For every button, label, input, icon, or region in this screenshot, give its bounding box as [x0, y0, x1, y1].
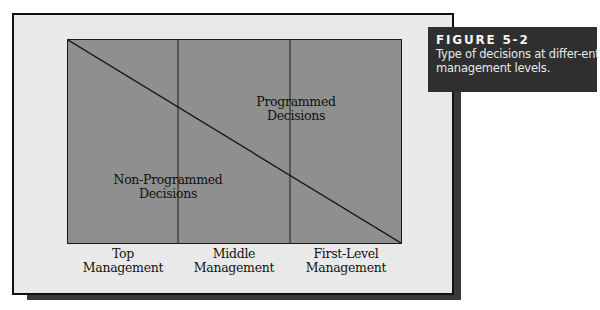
figure-frame: Programmed Decisions Non-Programmed Deci…: [12, 13, 454, 295]
non-programmed-label-line1: Non-Programmed: [98, 173, 238, 187]
decision-diagram: Programmed Decisions Non-Programmed Deci…: [67, 39, 402, 244]
diagram-lines: [68, 40, 401, 243]
level-label-line2: Management: [178, 261, 290, 275]
level-label-line1: Top: [67, 247, 179, 261]
level-label-line2: Management: [67, 261, 179, 275]
management-levels: Top Management Middle Management First-L…: [67, 247, 402, 287]
level-top-management: Top Management: [67, 247, 179, 275]
programmed-label-line1: Programmed: [236, 95, 356, 109]
figure-caption: FIGURE 5-2 Type of decisions at differ-e…: [428, 27, 597, 92]
caption-text: Type of decisions at differ-ent manageme…: [436, 47, 600, 75]
diagonal-split-line: [68, 40, 401, 243]
level-middle-management: Middle Management: [178, 247, 290, 275]
caption-title: FIGURE 5-2: [436, 33, 597, 47]
level-label-line1: Middle: [178, 247, 290, 261]
non-programmed-label-line2: Decisions: [98, 187, 238, 201]
level-first-level-management: First-Level Management: [290, 247, 402, 275]
level-label-line2: Management: [290, 261, 402, 275]
programmed-decisions-label: Programmed Decisions: [236, 95, 356, 123]
level-label-line1: First-Level: [290, 247, 402, 261]
non-programmed-decisions-label: Non-Programmed Decisions: [98, 173, 238, 201]
programmed-label-line2: Decisions: [236, 109, 356, 123]
